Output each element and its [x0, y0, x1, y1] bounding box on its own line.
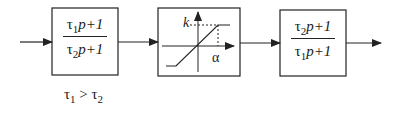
numerator: τ1p+1	[58, 15, 112, 33]
k-label: k	[183, 15, 189, 31]
lead-transfer-function: τ1p+1 τ2p+1	[58, 15, 112, 58]
subscript: 2	[98, 93, 104, 105]
denominator: τ2p+1	[58, 40, 112, 58]
greater-than: >	[76, 86, 92, 102]
saturation-characteristic-plot	[162, 12, 234, 72]
alpha-label: α	[212, 50, 219, 66]
expression: p+1	[306, 43, 331, 59]
denominator: τ1p+1	[286, 42, 340, 60]
expression: p+1	[78, 41, 103, 57]
lag-transfer-function: τ2p+1 τ1p+1	[286, 17, 340, 60]
expression: p+1	[78, 16, 103, 32]
fraction-bar	[63, 36, 107, 37]
fraction-bar	[291, 38, 335, 39]
numerator: τ2p+1	[286, 17, 340, 35]
expression: p+1	[306, 18, 331, 34]
tau-condition: τ1 > τ2	[64, 86, 103, 103]
